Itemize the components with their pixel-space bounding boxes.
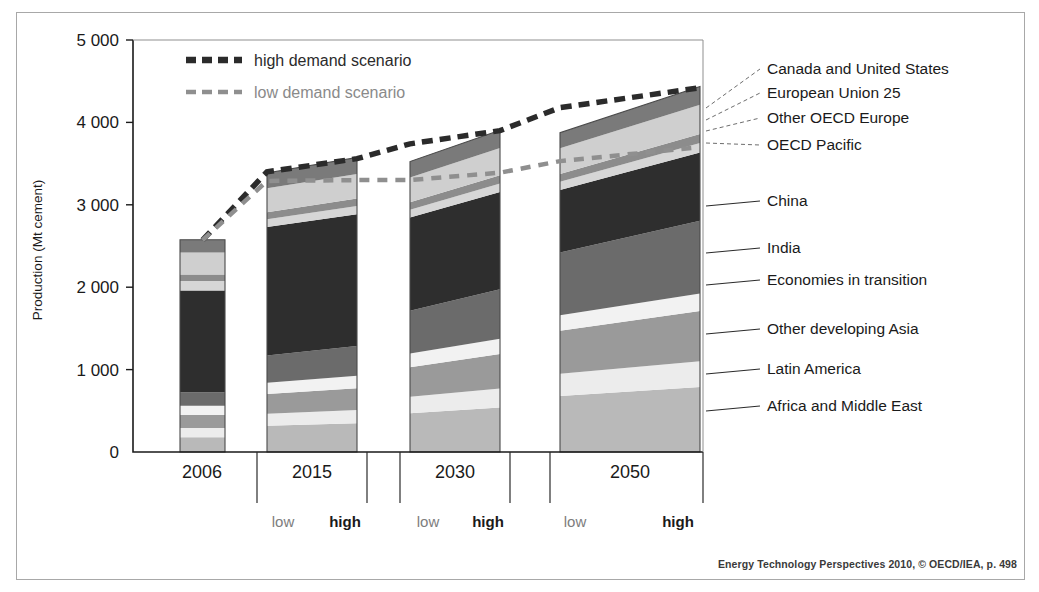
- region-leader-line: [706, 329, 760, 334]
- y-tick-label: 1 000: [76, 361, 119, 380]
- scenario-axis-label: low: [564, 513, 587, 530]
- region-leader-line: [706, 143, 760, 145]
- region-leader-line: [706, 280, 760, 285]
- stack-segment: [267, 214, 357, 355]
- y-tick-label: 2 000: [76, 278, 119, 297]
- figure-root: 01 0002 0003 0004 0005 000 2006201520302…: [0, 0, 1039, 592]
- region-label: Other developing Asia: [767, 320, 919, 337]
- region-leader-line: [706, 406, 760, 411]
- region-leader-line: [706, 118, 760, 131]
- region-leader-line: [706, 93, 760, 120]
- stack-segment: [180, 437, 225, 452]
- stack-segment: [560, 387, 700, 452]
- stack-segment: [267, 423, 357, 452]
- legend-label: low demand scenario: [254, 84, 405, 101]
- y-axis-label: Production (Mt cement): [30, 180, 45, 320]
- region-label: China: [767, 192, 808, 209]
- region-leader-line: [706, 69, 760, 108]
- x-scenario-labels: lowhighlowhighlowhigh: [272, 513, 694, 530]
- stack-segment: [180, 240, 225, 253]
- region-label: Other OECD Europe: [767, 109, 909, 126]
- stack-segment: [180, 253, 225, 275]
- stack-segment: [410, 408, 500, 452]
- x-year-labels: 2006201520302050: [182, 452, 703, 503]
- stack-segment: [180, 392, 225, 406]
- y-tick-labels: 01 0002 0003 0004 0005 000: [76, 31, 119, 462]
- y-tick-label: 0: [110, 443, 119, 462]
- region-label: Economies in transition: [767, 271, 927, 288]
- y-tick-label: 4 000: [76, 113, 119, 132]
- stack-segment: [180, 428, 225, 437]
- scenario-axis-label: low: [417, 513, 440, 530]
- stack-segment: [180, 415, 225, 428]
- stack-segment: [180, 274, 225, 281]
- scenario-axis-label: high: [472, 513, 504, 530]
- source-credit: Energy Technology Perspectives 2010, © O…: [718, 558, 1017, 570]
- region-label: Canada and United States: [767, 60, 949, 77]
- region-label: European Union 25: [767, 84, 901, 101]
- x-year-label: 2015: [292, 462, 332, 482]
- y-tick-label: 3 000: [76, 196, 119, 215]
- legend: high demand scenariolow demand scenario: [186, 52, 412, 101]
- stack-segment: [180, 406, 225, 415]
- x-year-label: 2030: [435, 462, 475, 482]
- stack-segment: [180, 290, 225, 392]
- scenario-axis-label: low: [272, 513, 295, 530]
- region-leader-line: [706, 201, 760, 206]
- region-leader-line: [706, 369, 760, 374]
- cement-production-chart: 01 0002 0003 0004 0005 000 2006201520302…: [0, 0, 1039, 592]
- x-year-label: 2050: [610, 462, 650, 482]
- region-label: Latin America: [767, 360, 861, 377]
- scenario-axis-label: high: [662, 513, 694, 530]
- region-label: Africa and Middle East: [767, 397, 923, 414]
- region-labels: Canada and United StatesEuropean Union 2…: [706, 60, 949, 414]
- region-leader-line: [706, 248, 760, 253]
- stack-segment: [180, 281, 225, 290]
- region-label: India: [767, 239, 801, 256]
- scenario-axis-label: high: [329, 513, 361, 530]
- region-label: OECD Pacific: [767, 136, 862, 153]
- legend-label: high demand scenario: [254, 52, 412, 69]
- y-tick-label: 5 000: [76, 31, 119, 50]
- x-year-label: 2006: [182, 462, 222, 482]
